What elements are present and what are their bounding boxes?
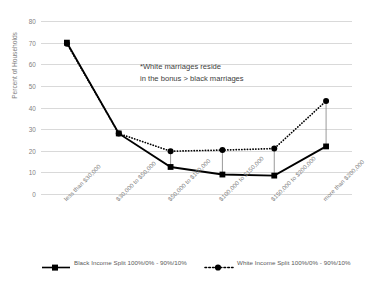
x-axis-tick-labels: less than $30,000$30,000 to $50,000$50,0… — [41, 196, 352, 256]
series-line-white — [67, 44, 326, 151]
data-point-marker — [323, 144, 329, 150]
chart-container: Percent of Households 01020304050607080 … — [0, 0, 368, 286]
data-point-marker — [219, 147, 225, 153]
data-point-marker — [271, 146, 277, 152]
legend-item-white[interactable]: White Income Split 100%/0% - 90%/10% — [204, 258, 351, 267]
data-point-marker — [271, 173, 277, 179]
legend-key-solid-square-icon — [41, 258, 71, 267]
annotation-line-1: *White marriages reside — [140, 61, 244, 73]
data-point-marker — [220, 172, 226, 178]
legend-key-dotted-circle-icon — [204, 258, 234, 267]
data-point-marker — [323, 98, 329, 104]
data-point-marker — [116, 130, 122, 136]
legend-label-white: White Income Split 100%/0% - 90%/10% — [237, 259, 351, 266]
data-point-marker — [168, 164, 174, 170]
data-point-marker — [168, 148, 174, 154]
chart-legend: Black Income Split 100%/0% - 90%/10% Whi… — [41, 258, 352, 272]
annotation-line-2: in the bonus > black marriages — [140, 73, 244, 85]
legend-item-black[interactable]: Black Income Split 100%/0% - 90%/10% — [41, 258, 187, 267]
legend-label-black: Black Income Split 100%/0% - 90%/10% — [74, 259, 187, 266]
chart-annotation: *White marriages reside in the bonus > b… — [140, 61, 244, 84]
data-point-marker — [64, 41, 70, 47]
